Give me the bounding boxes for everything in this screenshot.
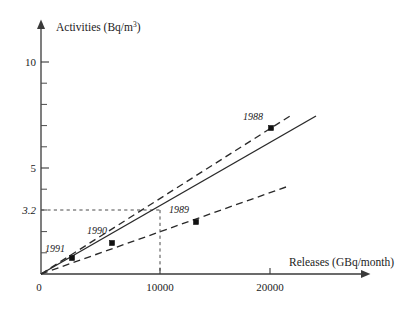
axes-group (41, 28, 362, 274)
y-axis-title-close: ) (137, 21, 141, 34)
data-point-1990 (110, 241, 115, 246)
point-label-1989: 1989 (169, 204, 189, 215)
activities-vs-releases-chart: 1991 1990 1989 1988 10 5 3.2 0 10000 200… (0, 0, 411, 317)
y-tick-label-group: 10 5 3.2 (21, 56, 36, 216)
upper-envelope-line (41, 116, 290, 274)
point-label-1988: 1988 (243, 111, 263, 122)
x-tick-label-10000: 10000 (146, 281, 174, 293)
point-label-1991: 1991 (45, 243, 65, 254)
x-axis-title: Releases (GBq/month) (289, 256, 394, 269)
data-point-1988 (269, 126, 274, 131)
point-label-group: 1991 1990 1989 1988 (45, 111, 263, 254)
x-tick-label-group: 0 10000 20000 (36, 281, 284, 293)
data-point-1991 (70, 256, 75, 261)
point-label-1990: 1990 (87, 225, 107, 236)
y-tick-label-10: 10 (25, 56, 37, 68)
data-point-1989 (194, 220, 199, 225)
chart-container: 1991 1990 1989 1988 10 5 3.2 0 10000 200… (0, 0, 411, 317)
series-group (41, 116, 316, 274)
x-tick-label-0: 0 (36, 281, 42, 293)
y-tick-label-5: 5 (31, 162, 37, 174)
y-axis-title-base: Activities (Bq/m (56, 21, 133, 34)
y-tick-group (41, 62, 49, 253)
overall-regression-line (41, 116, 316, 274)
x-tick-label-20000: 20000 (256, 281, 284, 293)
y-tick-label-3-2: 3.2 (21, 204, 36, 216)
y-axis-title: Activities (Bq/m3) (56, 20, 141, 34)
lower-envelope-line (41, 187, 286, 274)
x-tick-group (160, 268, 270, 274)
